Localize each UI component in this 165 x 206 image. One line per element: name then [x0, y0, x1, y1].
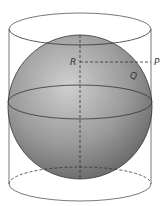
- cylinder-bottom-ellipse-front: [9, 184, 151, 201]
- label-q: Q: [130, 72, 137, 81]
- sphere-in-cylinder-diagram: [0, 0, 165, 206]
- cylinder-top-ellipse-back: [9, 13, 151, 29]
- label-r: R: [70, 58, 76, 67]
- label-p: P: [154, 58, 159, 67]
